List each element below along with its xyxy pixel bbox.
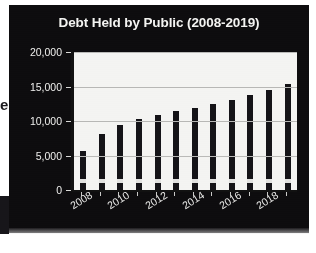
gridline <box>74 87 297 88</box>
bar <box>80 151 86 190</box>
y-axis: 05,00010,00015,00020,000 <box>9 5 70 233</box>
x-axis-tick-label: 2016 <box>217 189 243 212</box>
gridline <box>74 52 297 53</box>
y-axis-tick-label: 5,000 <box>36 150 62 162</box>
x-axis-tick <box>286 192 287 196</box>
page-bottom-shadow <box>9 228 309 234</box>
bar <box>285 84 291 190</box>
y-axis-tick-label: 0 <box>56 184 62 196</box>
bar <box>247 95 253 190</box>
x-axis: 200820102012201420162018 <box>72 192 295 233</box>
margin-text-fragment: e <box>0 96 9 114</box>
x-axis-tick <box>174 192 175 196</box>
x-axis-tick <box>137 192 138 196</box>
x-axis-tick-label: 2018 <box>254 189 280 212</box>
x-axis-tick <box>211 192 212 196</box>
bar <box>117 125 123 190</box>
x-axis-tick-label: 2010 <box>105 189 131 212</box>
scan-edge-artifact <box>0 196 9 234</box>
gridline <box>74 156 297 157</box>
plot-area <box>72 52 297 190</box>
x-axis-tick-label: 2012 <box>143 189 169 212</box>
gridline <box>74 121 297 122</box>
x-axis-tick-label: 2014 <box>180 189 206 212</box>
bar <box>266 90 272 190</box>
y-axis-tick-label: 20,000 <box>30 46 62 58</box>
x-axis-tick-label: 2008 <box>68 189 94 212</box>
bar <box>155 115 161 190</box>
bar-chart: Debt Held by Public (2008-2019) 05,00010… <box>9 5 309 233</box>
bar <box>210 104 216 190</box>
bar <box>99 134 105 190</box>
scanned-page: e Debt Held by Public (2008-2019) 05,000… <box>0 0 316 253</box>
x-axis-tick <box>100 192 101 196</box>
bar <box>229 100 235 190</box>
bar <box>173 111 179 190</box>
y-axis-tick-label: 10,000 <box>30 115 62 127</box>
x-axis-tick <box>249 192 250 196</box>
y-axis-tick-label: 15,000 <box>30 81 62 93</box>
